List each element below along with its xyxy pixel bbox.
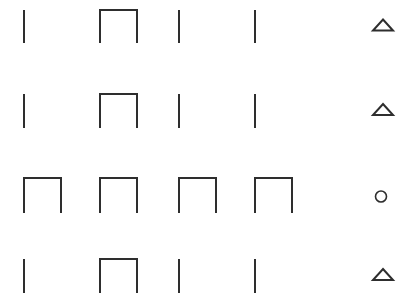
triangle-icon <box>373 20 393 31</box>
open-box-symbol <box>255 178 292 213</box>
open-box-symbol <box>100 94 137 128</box>
open-box-symbol <box>24 178 61 213</box>
triangle-icon <box>373 104 393 115</box>
open-box-symbol <box>100 259 137 293</box>
circle-icon <box>376 191 387 202</box>
row-3 <box>24 178 387 213</box>
triangle-icon <box>373 269 393 280</box>
open-box-symbol <box>179 178 216 213</box>
symbol-grid-diagram <box>0 0 406 307</box>
row-1 <box>24 10 393 43</box>
open-box-symbol <box>100 10 137 43</box>
row-2 <box>24 94 393 128</box>
row-4 <box>24 259 393 293</box>
open-box-symbol <box>100 178 137 213</box>
